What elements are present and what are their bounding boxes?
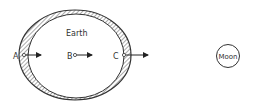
earth-label: Earth: [66, 29, 87, 38]
moon-label: Moon: [218, 53, 237, 61]
tide-diagram: Earth A B C Moon: [0, 0, 253, 112]
point-b-marker: [73, 53, 76, 56]
point-a-label: A: [13, 52, 19, 61]
point-a-marker: [22, 53, 25, 56]
point-b-label: B: [67, 52, 73, 61]
point-c-marker: [122, 53, 125, 56]
point-c-label: C: [113, 52, 119, 61]
tidal-bulge-hatch: [0, 0, 253, 112]
